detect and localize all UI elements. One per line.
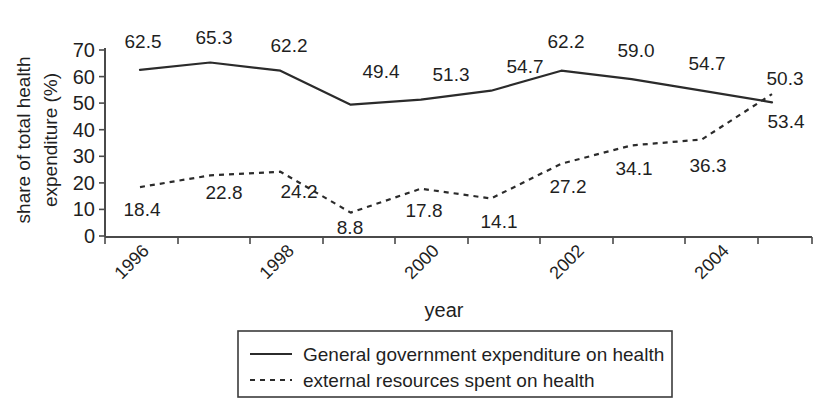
y-tick-label-60: 60 — [73, 66, 95, 88]
data-label-ext-1998: 24.2 — [281, 181, 318, 202]
data-label-ext-2005: 53.4 — [768, 111, 805, 132]
x-axis-tick-labels: 1996 1998 2000 2002 2004 — [111, 241, 733, 283]
data-label-gov-2001: 54.7 — [507, 56, 544, 77]
y-tick-label-40: 40 — [73, 119, 95, 141]
data-label-gov-1998: 62.2 — [271, 35, 308, 56]
chart-legend: General government expenditure on health… — [238, 331, 672, 397]
y-axis-title: share of total health expenditure (%) — [13, 57, 61, 224]
y-tick-label-30: 30 — [73, 145, 95, 167]
y-axis-title-line1: share of total health — [13, 57, 34, 224]
data-label-ext-1999: 8.8 — [337, 217, 363, 238]
y-tick-label-0: 0 — [84, 225, 95, 247]
data-label-gov-2004: 54.7 — [689, 53, 726, 74]
y-tick-label-20: 20 — [73, 172, 95, 194]
data-label-gov-1997: 65.3 — [196, 27, 233, 48]
data-label-ext-2001: 14.1 — [481, 211, 518, 232]
chart-figure: share of total health expenditure (%) 70… — [0, 0, 832, 412]
y-axis-title-line2: expenditure (%) — [40, 73, 61, 207]
legend-label-external-resources: external resources spent on health — [303, 370, 595, 391]
x-tick-label-2000: 2000 — [401, 241, 443, 283]
data-label-gov-2000: 51.3 — [433, 64, 470, 85]
x-axis-ticks — [105, 237, 812, 244]
data-label-ext-2000: 17.8 — [406, 200, 443, 221]
data-label-ext-1997: 22.8 — [206, 182, 243, 203]
line-chart-svg: share of total health expenditure (%) 70… — [0, 0, 832, 412]
y-tick-label-70: 70 — [73, 39, 95, 61]
y-axis-ticks: 70 60 50 40 30 20 10 0 — [73, 39, 105, 247]
x-axis-title: year — [425, 299, 464, 321]
legend-label-general-government: General government expenditure on health — [303, 344, 664, 365]
x-tick-label-1996: 1996 — [111, 241, 153, 283]
data-label-ext-2002: 27.2 — [550, 176, 587, 197]
data-label-ext-1996: 18.4 — [124, 199, 161, 220]
y-tick-label-50: 50 — [73, 92, 95, 114]
series-labels-general-government: 62.5 65.3 62.2 49.4 51.3 54.7 62.2 59.0 … — [125, 27, 804, 89]
x-tick-label-1998: 1998 — [256, 241, 298, 283]
x-tick-label-2002: 2002 — [546, 241, 588, 283]
data-label-ext-2004: 36.3 — [690, 155, 727, 176]
data-label-ext-2003: 34.1 — [616, 158, 653, 179]
data-label-gov-1996: 62.5 — [125, 31, 162, 52]
data-label-gov-2002: 62.2 — [548, 31, 585, 52]
y-tick-label-10: 10 — [73, 198, 95, 220]
data-label-gov-2003: 59.0 — [618, 40, 655, 61]
legend-item-general-government[interactable]: General government expenditure on health — [250, 344, 664, 365]
series-labels-external-resources: 18.4 22.8 24.2 8.8 17.8 14.1 27.2 34.1 3… — [124, 111, 805, 238]
data-label-gov-1999: 49.4 — [363, 61, 400, 82]
x-tick-label-2004: 2004 — [691, 241, 733, 283]
data-label-gov-2005: 50.3 — [767, 68, 804, 89]
